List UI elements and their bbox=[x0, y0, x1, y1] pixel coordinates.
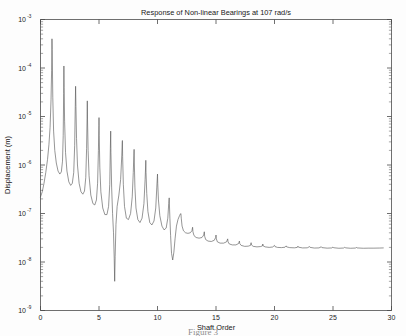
y-tick-label: 10 bbox=[18, 162, 26, 169]
x-tick-label: 25 bbox=[329, 314, 337, 321]
x-tick-label: 5 bbox=[97, 314, 101, 321]
x-tick-label: 0 bbox=[39, 314, 43, 321]
x-tick-label: 30 bbox=[388, 314, 396, 321]
y-tick-label: 10 bbox=[18, 210, 26, 217]
y-tick-label: 10 bbox=[18, 113, 26, 120]
plot-background bbox=[41, 20, 392, 311]
y-tick-exponent: -5 bbox=[27, 111, 32, 116]
y-tick-label: 10 bbox=[18, 65, 26, 72]
y-tick-exponent: -6 bbox=[27, 160, 32, 165]
y-tick-exponent: -4 bbox=[27, 63, 32, 68]
chart-canvas: Response of Non-linear Bearings at 107 r… bbox=[0, 0, 406, 336]
y-tick-exponent: -3 bbox=[27, 14, 32, 19]
x-tick-label: 20 bbox=[271, 314, 279, 321]
x-tick-label: 15 bbox=[212, 314, 220, 321]
y-tick-exponent: -9 bbox=[27, 305, 32, 310]
x-tick-label: 10 bbox=[154, 314, 162, 321]
y-tick-exponent: -8 bbox=[27, 257, 32, 262]
y-tick-label: 10 bbox=[18, 307, 26, 314]
chart-title: Response of Non-linear Bearings at 107 r… bbox=[141, 8, 291, 17]
figure-caption: Figure 3 bbox=[188, 327, 219, 336]
y-tick-exponent: -7 bbox=[27, 208, 32, 213]
y-axis-label: Displacement (m) bbox=[3, 136, 12, 194]
y-tick-label: 10 bbox=[18, 16, 26, 23]
figure-root: Response of Non-linear Bearings at 107 r… bbox=[0, 0, 406, 336]
y-tick-label: 10 bbox=[18, 259, 26, 266]
